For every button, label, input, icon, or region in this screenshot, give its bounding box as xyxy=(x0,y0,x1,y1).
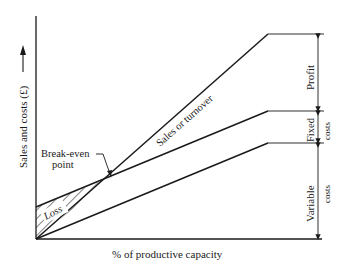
break-even-label-2: point xyxy=(52,159,74,170)
sales-line-label: Sales or turnover xyxy=(154,92,215,148)
up-arrow-head-icon xyxy=(20,45,26,55)
fixed-costs-label-2: costs xyxy=(322,122,332,140)
variable-costs-label: Variable xyxy=(304,185,316,222)
variable-costs-label-2: costs xyxy=(322,185,332,203)
y-axis-label: Sales and costs (£) xyxy=(17,85,30,168)
x-axis-label: % of productive capacity xyxy=(112,248,223,260)
profit-label: Profit xyxy=(304,65,316,90)
break-even-chart: Sales and costs (£) % of productive capa… xyxy=(0,0,344,266)
fixed-costs-label: Fixed xyxy=(305,117,316,142)
break-even-label: Break-even xyxy=(41,148,90,159)
sales-line xyxy=(36,34,268,239)
